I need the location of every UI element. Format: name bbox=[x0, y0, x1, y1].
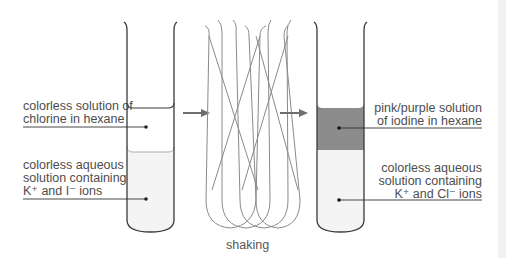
left-top-label-line-2: chlorine in hexane bbox=[23, 113, 133, 126]
left-hexane-meniscus bbox=[127, 103, 174, 108]
left-top-dot bbox=[144, 125, 148, 129]
diagram-canvas bbox=[0, 0, 506, 258]
right-iodine-layer bbox=[317, 103, 364, 150]
right-bottom-dot bbox=[337, 198, 341, 202]
right-top-dot bbox=[337, 126, 341, 130]
shaking-tube-b bbox=[218, 20, 271, 228]
shaking-tubes bbox=[205, 20, 300, 228]
left-bottom-label: colorless aqueous solution containing K⁺… bbox=[23, 159, 127, 198]
right-top-label: pink/purple solution of iodine in hexane bbox=[374, 102, 482, 128]
left-aqueous-layer bbox=[127, 150, 174, 232]
right-bottom-label-line-3: K⁺ and Cl⁻ ions bbox=[378, 188, 482, 201]
right-top-label-line-2: of iodine in hexane bbox=[374, 115, 482, 128]
right-bottom-label: colorless aqueous solution containing K⁺… bbox=[378, 162, 482, 201]
shaking-caption: shaking bbox=[226, 238, 269, 252]
left-test-tube bbox=[23, 22, 177, 232]
right-aqueous-layer bbox=[317, 150, 364, 232]
arrow-to-result bbox=[280, 109, 308, 117]
arrow-to-shaking bbox=[183, 109, 210, 117]
shaking-tube-a bbox=[205, 26, 266, 228]
shaking-tube-e bbox=[209, 36, 258, 190]
left-layer-interface bbox=[127, 147, 174, 152]
left-top-label: colorless solution of chlorine in hexane bbox=[23, 100, 133, 126]
shaking-tube-f bbox=[212, 36, 260, 190]
left-bottom-dot bbox=[144, 197, 148, 201]
left-bottom-label-line-3: K⁺ and I⁻ ions bbox=[23, 185, 127, 198]
